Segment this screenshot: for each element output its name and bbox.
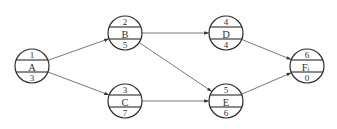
node-label: D bbox=[222, 28, 230, 39]
node-bottom-value: 7 bbox=[123, 108, 128, 118]
edge-a-to-b bbox=[48, 39, 108, 60]
node-c: 3C7 bbox=[108, 84, 142, 118]
nodes-group: 1A32B53C74D45E66Fi0 bbox=[15, 16, 324, 118]
node-bottom-value: 3 bbox=[30, 73, 35, 83]
node-a: 1A3 bbox=[15, 49, 49, 83]
network-diagram: 1A32B53C74D45E66Fi0 bbox=[0, 0, 337, 129]
node-top-value: 5 bbox=[224, 85, 229, 95]
node-top-value: 2 bbox=[123, 17, 128, 27]
node-top-value: 3 bbox=[123, 85, 128, 95]
node-bottom-value: 5 bbox=[123, 40, 128, 50]
node-top-value: 1 bbox=[30, 50, 35, 60]
edge-b-to-e bbox=[139, 42, 211, 91]
edge-d-to-f bbox=[242, 39, 291, 59]
edge-e-to-f bbox=[242, 73, 291, 94]
node-top-value: 6 bbox=[305, 50, 310, 60]
node-e: 5E6 bbox=[209, 84, 243, 118]
node-bottom-value: 0 bbox=[305, 73, 310, 83]
node-d: 4D4 bbox=[209, 16, 243, 50]
node-bottom-value: 4 bbox=[224, 40, 229, 50]
edges-group bbox=[48, 33, 291, 101]
edge-a-to-c bbox=[48, 72, 109, 95]
node-label: A bbox=[28, 61, 36, 72]
node-bottom-value: 6 bbox=[224, 108, 229, 118]
node-label: C bbox=[121, 96, 128, 107]
node-top-value: 4 bbox=[224, 17, 229, 27]
node-f: 6Fi0 bbox=[290, 49, 324, 83]
node-label: E bbox=[223, 96, 229, 107]
node-label: B bbox=[121, 28, 128, 39]
node-b: 2B5 bbox=[108, 16, 142, 50]
